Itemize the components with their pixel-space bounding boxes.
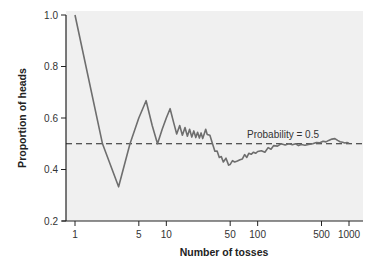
chart: Probability = 0.5 0.20.40.60.81.0 151050… [0,0,381,276]
x-tick-label: 50 [225,229,237,240]
x-tick-label: 10 [161,229,173,240]
y-tick-label: 0.2 [44,216,58,227]
x-tick-label: 1000 [338,229,361,240]
y-tick-label: 1.0 [44,10,58,21]
x-tick-label: 5 [136,229,142,240]
x-axis-title: Number of tosses [180,246,269,258]
y-axis-title: Proportion of heads [16,68,28,168]
plot-area [66,11,363,221]
y-tick-label: 0.8 [44,61,58,72]
y-tick-label: 0.6 [44,113,58,124]
y-ticks: 0.20.40.60.81.0 [44,10,66,227]
x-tick-label: 100 [249,229,266,240]
y-tick-label: 0.4 [44,164,58,175]
reference-line-label: Probability = 0.5 [247,129,319,140]
x-tick-label: 500 [313,229,330,240]
x-ticks: 1510501005001000 [72,221,360,240]
x-tick-label: 1 [72,229,78,240]
